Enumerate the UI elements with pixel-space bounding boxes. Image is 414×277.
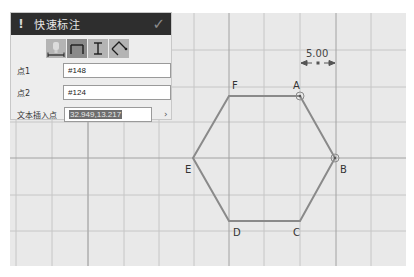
horizontal-dimension-icon: [68, 40, 86, 57]
dimension-arrows: [301, 61, 335, 66]
vertex-label-d: D: [233, 227, 241, 238]
text-insert-point-row: 文本插入点 32.949,13.217 ›: [11, 104, 171, 124]
dimension-tool-bar: [3, 39, 171, 58]
vertex-label-f: F: [232, 80, 238, 91]
dimension-value[interactable]: 5.00: [306, 48, 328, 59]
panel-title: 快速标注: [34, 16, 80, 32]
point2-input[interactable]: #124: [63, 85, 171, 100]
selected-text: 32.949,13.217: [69, 110, 122, 119]
panel-titlebar: ! 快速标注 ✓: [11, 13, 171, 35]
text-insert-point-label: 文本插入点: [11, 109, 64, 120]
vertex-label-c: C: [293, 227, 300, 238]
point1-row: 点1 #148: [11, 60, 171, 80]
warning-icon: !: [14, 17, 28, 31]
smart-dimension-icon: [47, 40, 65, 57]
vertical-dimension-icon: [89, 40, 107, 57]
tool-smart-dimension[interactable]: [46, 39, 66, 58]
angle-dimension-icon: [110, 40, 128, 57]
tool-horizontal-dimension[interactable]: [67, 39, 87, 58]
tool-vertical-dimension[interactable]: [88, 39, 108, 58]
confirm-check-icon[interactable]: ✓: [152, 15, 165, 33]
vertex-label-e: E: [185, 164, 191, 175]
quick-dimension-panel: ! 快速标注 ✓: [10, 12, 172, 120]
point1-label: 点1: [11, 65, 63, 76]
point2-row: 点2 #124: [11, 82, 171, 102]
vertex-label-a: A: [293, 80, 300, 91]
point1-input[interactable]: #148: [63, 63, 171, 78]
vertex-label-b: B: [340, 164, 347, 175]
text-insert-point-input[interactable]: 32.949,13.217: [64, 107, 152, 122]
expand-arrow-icon[interactable]: ›: [164, 109, 168, 119]
tool-angle-dimension[interactable]: [109, 39, 129, 58]
point2-label: 点2: [11, 87, 63, 98]
